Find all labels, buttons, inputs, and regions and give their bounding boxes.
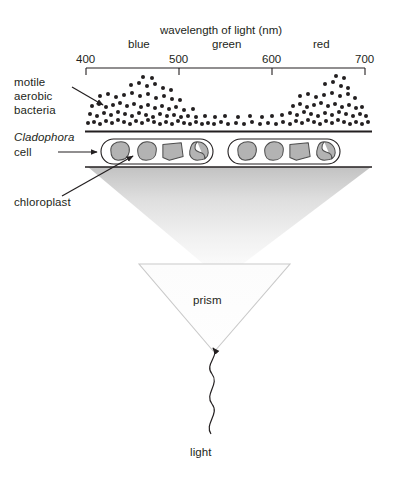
bacterium-dot xyxy=(306,118,310,122)
tick-label-600: 600 xyxy=(262,53,281,65)
bacterium-dot xyxy=(338,94,342,98)
chloroplast xyxy=(265,142,284,160)
incident-light-ray xyxy=(209,348,215,434)
bacterium-dot xyxy=(346,86,350,90)
bacterium-dot xyxy=(114,95,118,99)
bacterium-dot xyxy=(165,114,169,118)
bacterium-dot xyxy=(95,114,99,118)
bacterium-dot xyxy=(324,119,328,123)
bacterium-dot xyxy=(306,92,310,96)
bacterium-dot xyxy=(130,91,134,95)
bacterium-dot xyxy=(294,119,298,123)
bacterium-dot xyxy=(153,106,157,110)
bacterium-dot xyxy=(319,101,323,105)
bacterium-dot xyxy=(330,121,334,125)
bacterium-dot xyxy=(111,103,115,107)
bacterium-dot xyxy=(339,84,343,88)
bacterium-dot xyxy=(298,102,302,106)
bacterium-dot xyxy=(150,76,154,80)
bacterium-dot xyxy=(309,112,313,116)
bacterium-dot xyxy=(298,94,302,98)
bacterium-dot xyxy=(128,122,132,126)
bacterium-dot xyxy=(331,80,335,84)
bacterium-dot xyxy=(333,102,337,106)
bacterium-dot xyxy=(151,115,155,119)
bacterium-dot xyxy=(98,94,102,98)
bacterium-dot xyxy=(234,121,238,125)
tick-label-700: 700 xyxy=(355,53,374,65)
bacterium-dot xyxy=(236,115,240,119)
bacterium-dot xyxy=(154,96,158,100)
bacterium-dot xyxy=(305,105,309,109)
bacterium-dot xyxy=(98,122,102,126)
bacterium-dot xyxy=(346,92,350,96)
dispersed-light-cone xyxy=(88,167,371,272)
bacterium-dot xyxy=(316,114,320,118)
bacterium-dot xyxy=(323,111,327,115)
motile-aerobic-bacteria-dots xyxy=(86,74,370,126)
bacterium-dot xyxy=(280,113,284,117)
bacterium-dot xyxy=(182,108,186,112)
bacterium-dot xyxy=(153,82,157,86)
bacterium-dot xyxy=(219,120,223,124)
bacterium-dot xyxy=(344,112,348,116)
bacterium-dot xyxy=(116,118,120,122)
bacterium-dot xyxy=(206,121,210,125)
bacterium-dot xyxy=(146,92,150,96)
bacterium-dot xyxy=(314,95,318,99)
bacterium-dot xyxy=(330,113,334,117)
bacterium-dot xyxy=(158,122,162,126)
bacterium-dot xyxy=(351,114,355,118)
bacterium-dot xyxy=(300,121,304,125)
bacterium-dot xyxy=(174,105,178,109)
bacterium-dot xyxy=(347,103,351,107)
bacterium-dot xyxy=(164,120,168,124)
tick-label-400: 400 xyxy=(76,53,95,65)
bacterium-dot xyxy=(270,114,274,118)
bacterium-dot xyxy=(302,110,306,114)
bacterium-dot xyxy=(323,82,327,86)
wavelength-axis xyxy=(86,68,365,75)
bacterium-dot xyxy=(364,114,368,118)
bacterium-dot xyxy=(152,120,156,124)
bacterium-dot xyxy=(281,120,285,124)
bacterium-dot xyxy=(330,91,334,95)
bacterium-dot xyxy=(226,122,230,126)
bacterium-dot xyxy=(146,118,150,122)
bacterium-dot xyxy=(106,92,110,96)
bacterium-dot xyxy=(288,122,292,126)
bacterium-dot xyxy=(203,114,207,118)
bacterium-dot xyxy=(312,103,316,107)
bacterium-dot xyxy=(194,115,198,119)
prism-shape xyxy=(139,264,290,352)
bacterium-dot xyxy=(354,120,358,124)
bacterium-dot xyxy=(200,122,204,126)
bacterium-dot xyxy=(288,111,292,115)
bacterium-dot xyxy=(137,81,141,85)
bacterium-dot xyxy=(242,122,246,126)
bacterium-dot xyxy=(170,122,174,126)
bacterium-dot xyxy=(274,122,278,126)
tick-label-500: 500 xyxy=(169,53,188,65)
bacterium-dot xyxy=(342,120,346,124)
bacterium-dot xyxy=(110,121,114,125)
bacterium-dot xyxy=(169,88,173,92)
bacterium-dot xyxy=(326,104,330,108)
bacterium-dot xyxy=(194,120,198,124)
bacterium-dot xyxy=(167,107,171,111)
bacterium-dot xyxy=(360,122,364,126)
bacterium-dot xyxy=(170,97,174,101)
bacterium-dot xyxy=(322,93,326,97)
bacterium-dot xyxy=(336,118,340,122)
bacterium-dot xyxy=(334,74,338,78)
cladophora-cells xyxy=(101,139,340,164)
bacterium-dot xyxy=(266,121,270,125)
bacterium-dot xyxy=(179,115,183,119)
bacterium-dot xyxy=(312,120,316,124)
bacterium-dot xyxy=(102,111,106,115)
bacterium-dot xyxy=(122,93,126,97)
bacterium-dot xyxy=(130,114,134,118)
bacterium-dot xyxy=(258,122,262,126)
bacterium-dot xyxy=(125,104,129,108)
light-label: light xyxy=(190,446,212,460)
